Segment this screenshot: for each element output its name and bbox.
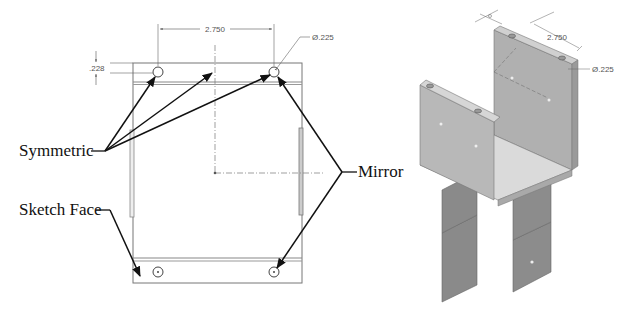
symmetric-callout[interactable]: Symmetric — [19, 73, 270, 160]
sketch-face-label: Sketch Face — [19, 200, 102, 219]
dimension-hole-diameter-label: Ø.225 — [312, 33, 334, 42]
dimension-hole-spacing-label: 2.750 — [205, 25, 226, 34]
iso-dimension-edge-offset[interactable] — [475, 10, 502, 24]
hole-bottom-left[interactable] — [153, 267, 163, 277]
dimension-hole-spacing[interactable]: 2.750 — [158, 24, 274, 66]
symmetric-label: Symmetric — [19, 141, 94, 160]
mirror-label: Mirror — [358, 162, 404, 181]
hole-top-right[interactable] — [269, 67, 279, 77]
hole-bottom-right[interactable] — [269, 267, 279, 277]
isometric-view: 2.750 Ø.225 — [420, 10, 614, 302]
hole-top-left[interactable] — [153, 67, 163, 77]
left-slot[interactable] — [130, 130, 134, 217]
sketch-face-callout[interactable]: Sketch Face — [19, 200, 140, 276]
drawing-canvas: 2.750 Ø.225 .228 Symmetric Sketch Face M… — [0, 0, 626, 310]
right-slot[interactable] — [299, 128, 303, 215]
dimension-edge-offset-label: .228 — [89, 64, 105, 73]
iso-dimension-hole-spacing-label: 2.750 — [547, 33, 568, 42]
dimension-edge-offset[interactable]: .228 — [89, 51, 153, 85]
mirror-callout[interactable]: Mirror — [277, 77, 404, 268]
origin-point — [214, 172, 217, 175]
iso-dimension-hole-diameter-label: Ø.225 — [592, 65, 614, 74]
